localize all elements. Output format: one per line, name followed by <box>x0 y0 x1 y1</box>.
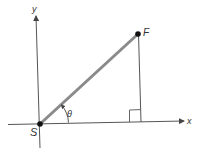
point-s <box>37 121 43 127</box>
point-f-label: F <box>143 27 150 38</box>
x-axis <box>8 121 184 125</box>
perpendicular-line <box>139 34 142 122</box>
theta-label: θ <box>67 109 72 119</box>
right-angle-marker <box>130 110 141 122</box>
y-axis-label: y <box>31 4 37 14</box>
point-f <box>135 31 141 37</box>
point-s-label: S <box>30 126 38 138</box>
diagram-canvas: x y θ S F <box>0 0 197 156</box>
vector-sf <box>40 34 138 124</box>
x-axis-label: x <box>186 116 192 126</box>
